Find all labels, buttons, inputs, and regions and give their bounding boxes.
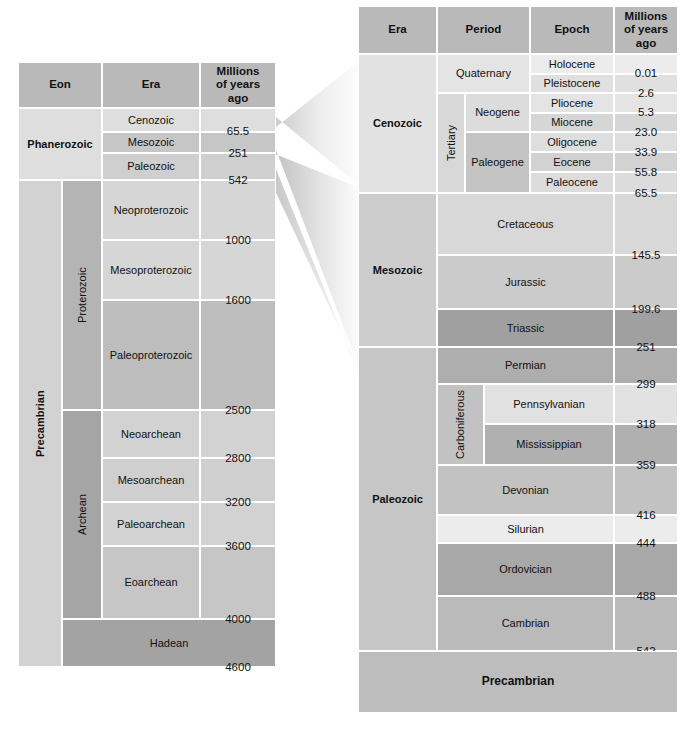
subperiod-pennsylvanian[interactable]: Pennsylvanian — [484, 384, 614, 424]
right-band-pennsylvanian — [614, 384, 678, 424]
unit-mesoarchean[interactable]: Mesoarchean — [102, 458, 200, 502]
epoch-pliocene[interactable]: Pliocene — [530, 93, 614, 113]
period-devonian[interactable]: Devonian — [437, 465, 614, 515]
right-header-epoch: Epoch — [530, 6, 614, 54]
years-band-mesoproterozoic — [200, 240, 276, 300]
right-band-ordovician — [614, 543, 678, 596]
right-band-holocene — [614, 54, 678, 74]
era-mesozoic[interactable]: Mesozoic — [358, 193, 437, 347]
right-band-silurian — [614, 515, 678, 543]
period-jurassic[interactable]: Jurassic — [437, 255, 614, 309]
years-band-neoproterozoic — [200, 180, 276, 240]
unit-cenozoic[interactable]: Cenozoic — [102, 108, 200, 132]
years-band-neoarchean — [200, 410, 276, 458]
right-band-paleocene — [614, 172, 678, 193]
left-header-eon: Eon — [18, 62, 102, 108]
footer-precambrian[interactable]: Precambrian — [358, 651, 678, 713]
years-line-2: of years — [216, 78, 260, 91]
period-ordovician[interactable]: Ordovician — [437, 543, 614, 596]
era-paleozoic[interactable]: Paleozoic — [358, 347, 437, 651]
unit-neoproterozoic[interactable]: Neoproterozoic — [102, 180, 200, 240]
era-group-archean[interactable]: Archean — [62, 410, 102, 619]
right-band-cambrian — [614, 596, 678, 651]
epoch-paleocene[interactable]: Paleocene — [530, 172, 614, 193]
years-band-cenozoic — [200, 108, 276, 132]
right-band-eocene — [614, 152, 678, 172]
unit-eoarchean[interactable]: Eoarchean — [102, 546, 200, 619]
period-silurian[interactable]: Silurian — [437, 515, 614, 543]
years-band-paleoarchean — [200, 502, 276, 546]
years-line-3: ago — [228, 92, 248, 105]
right-band-pleistocene — [614, 74, 678, 93]
years-band-eoarchean — [200, 546, 276, 619]
right-header-years: Millions of years ago — [614, 6, 678, 54]
right-band-permian — [614, 347, 678, 384]
period-cambrian[interactable]: Cambrian — [437, 596, 614, 651]
right-band-cretaceous — [614, 193, 678, 255]
period-permian[interactable]: Permian — [437, 347, 614, 384]
years-band-paleoproterozoic — [200, 300, 276, 410]
right-band-jurassic — [614, 255, 678, 309]
years-band-mesoarchean — [200, 458, 276, 502]
years-line-1: Millions — [217, 65, 260, 78]
epoch-pleistocene[interactable]: Pleistocene — [530, 74, 614, 93]
unit-paleozoic[interactable]: Paleozoic — [102, 153, 200, 180]
connector-wedges — [270, 60, 366, 380]
period-paleogene[interactable]: Paleogene — [465, 132, 530, 193]
years-band-paleozoic — [200, 153, 276, 180]
right-years-line-3: ago — [636, 37, 656, 50]
right-header-era: Era — [358, 6, 437, 54]
left-header-years: Millions of years ago — [200, 62, 276, 108]
unit-mesozoic[interactable]: Mesozoic — [102, 132, 200, 153]
epoch-miocene[interactable]: Miocene — [530, 113, 614, 132]
unit-hadean[interactable]: Hadean — [62, 619, 276, 667]
era-cenozoic[interactable]: Cenozoic — [358, 54, 437, 193]
right-years-line-1: Millions — [625, 10, 668, 23]
right-years-line-2: of years — [624, 23, 668, 36]
right-band-mississippian — [614, 424, 678, 465]
period-cretaceous[interactable]: Cretaceous — [437, 193, 614, 255]
eon-precambrian[interactable]: Precambrian — [18, 180, 62, 667]
period-quaternary[interactable]: Quaternary — [437, 54, 530, 93]
unit-paleoproterozoic[interactable]: Paleoproterozoic — [102, 300, 200, 410]
period-triassic[interactable]: Triassic — [437, 309, 614, 347]
period-neogene[interactable]: Neogene — [465, 93, 530, 132]
right-expanded-chart: Era Period Epoch Millions of years ago C… — [358, 6, 678, 716]
period-tertiary[interactable]: Tertiary — [437, 93, 465, 193]
era-group-proterozoic[interactable]: Proterozoic — [62, 180, 102, 410]
right-band-oligocene — [614, 132, 678, 152]
unit-neoarchean[interactable]: Neoarchean — [102, 410, 200, 458]
left-time-scale-chart: Eon Era Millions of years ago Phanerozoi… — [18, 62, 276, 667]
subperiod-mississippian[interactable]: Mississippian — [484, 424, 614, 465]
years-band-mesozoic — [200, 132, 276, 153]
right-band-triassic — [614, 309, 678, 347]
epoch-oligocene[interactable]: Oligocene — [530, 132, 614, 152]
eon-phanerozoic[interactable]: Phanerozoic — [18, 108, 102, 180]
left-header-era: Era — [102, 62, 200, 108]
epoch-eocene[interactable]: Eocene — [530, 152, 614, 172]
right-band-miocene — [614, 113, 678, 132]
right-band-devonian — [614, 465, 678, 515]
period-carboniferous[interactable]: Carboniferous — [437, 384, 484, 465]
epoch-holocene[interactable]: Holocene — [530, 54, 614, 74]
right-header-period: Period — [437, 6, 530, 54]
unit-mesoproterozoic[interactable]: Mesoproterozoic — [102, 240, 200, 300]
unit-paleoarchean[interactable]: Paleoarchean — [102, 502, 200, 546]
right-band-pliocene — [614, 93, 678, 113]
